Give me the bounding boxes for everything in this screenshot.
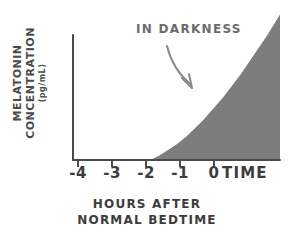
x-axis-title-line2: NORMAL BEDTIME — [0, 212, 294, 228]
x-axis-title-line1: HOURS AFTER — [0, 196, 294, 212]
x-tick-label-minus2: -2 — [133, 164, 159, 182]
x-tick-label-minus1: -1 — [167, 164, 193, 182]
melatonin-chart-figure: MELATONIN CONCENTRATION (pg/mL) IN DARKN… — [0, 0, 294, 240]
x-tick-label-minus4: -4 — [65, 164, 91, 182]
annotation-arrow-icon — [167, 46, 192, 88]
melatonin-area-fill — [150, 15, 280, 161]
y-axis-label: MELATONIN CONCENTRATION (pg/mL) — [11, 13, 53, 153]
x-tick-label-minus3: -3 — [99, 164, 125, 182]
y-axis-label-units: (pg/mL) — [37, 13, 48, 153]
annotation-in-darkness: IN DARKNESS — [136, 22, 242, 36]
x-axis-title: HOURS AFTER NORMAL BEDTIME — [0, 196, 294, 228]
y-axis-label-main: MELATONIN CONCENTRATION — [11, 13, 37, 153]
x-axis-end-label: TIME — [222, 164, 268, 182]
